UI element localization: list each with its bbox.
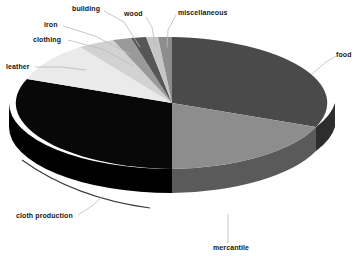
pie-label-building: building bbox=[72, 5, 100, 13]
pie-label-cloth-production: cloth production bbox=[16, 212, 73, 220]
leader-line-food bbox=[312, 56, 336, 74]
pie-label-iron: iron bbox=[44, 21, 58, 29]
pie-top-face bbox=[16, 37, 327, 169]
pie-label-food: food bbox=[336, 51, 352, 59]
pie-label-leather: leather bbox=[6, 63, 30, 71]
pie-label-mercantile: mercantile bbox=[213, 244, 249, 252]
pie-label-clothing: clothing bbox=[33, 36, 61, 44]
pie-chart-page: building wood miscellaneous iron clothin… bbox=[0, 0, 360, 256]
pie-label-wood: wood bbox=[124, 10, 143, 18]
leader-line-cloth-production bbox=[78, 196, 103, 215]
pie-label-miscellaneous: miscellaneous bbox=[178, 9, 228, 17]
